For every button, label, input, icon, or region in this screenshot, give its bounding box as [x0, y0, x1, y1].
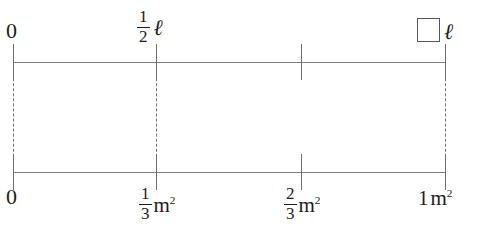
unit-m-text: m [431, 186, 447, 210]
fraction-numerator: 2 [284, 185, 297, 203]
area-label-one: 1m2 [418, 188, 453, 209]
missing-value-box[interactable] [417, 18, 440, 42]
unit-exponent-text: 2 [447, 187, 453, 199]
unit-m-text: m [299, 193, 315, 217]
unit-exponent-text: 2 [315, 194, 321, 206]
fraction-denominator: 2 [137, 28, 150, 46]
unit-meters-squared: m2 [299, 193, 321, 217]
fraction-numerator: 1 [137, 8, 150, 26]
fraction-denominator: 3 [284, 205, 297, 223]
unit-m-text: m [154, 193, 170, 217]
length-tick-mid [301, 44, 302, 80]
length-label-zero-text: 0 [6, 18, 17, 43]
area-label-zero-text: 0 [6, 184, 17, 209]
fraction-denominator: 3 [139, 205, 152, 223]
unit-meters-squared: m2 [431, 186, 453, 210]
fraction-two-thirds: 2 3 [284, 185, 297, 222]
unit-meters-squared: m2 [154, 193, 176, 217]
ell-symbol-blank: ℓ [444, 19, 453, 44]
length-axis-line [13, 62, 445, 63]
unit-exponent-text: 2 [170, 194, 176, 206]
double-number-line-diagram: 0 1 2 ℓ ℓ 0 1 3 m2 2 3 m2 [0, 0, 479, 241]
fraction-numerator: 1 [139, 185, 152, 203]
fraction-one-third: 1 3 [139, 185, 152, 222]
area-label-zero: 0 [6, 186, 17, 208]
length-label-unknown: ℓ [417, 18, 453, 43]
fraction-one-half: 1 2 [137, 8, 150, 45]
length-label-one-half: 1 2 ℓ [137, 8, 163, 45]
area-axis-line [13, 172, 445, 173]
area-tick-one [445, 154, 446, 190]
area-label-one-number: 1 [418, 186, 429, 210]
ell-symbol: ℓ [154, 15, 163, 40]
length-label-zero: 0 [6, 20, 17, 42]
area-label-one-third: 1 3 m2 [139, 185, 176, 222]
area-label-two-thirds: 2 3 m2 [284, 185, 321, 222]
